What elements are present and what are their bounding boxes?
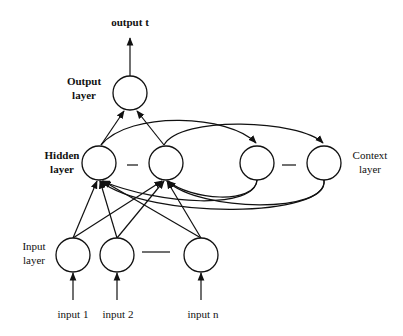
input2-label: input 2	[103, 308, 134, 320]
input-node-2	[100, 238, 134, 272]
svg-text:layer: layer	[50, 163, 74, 175]
svg-text:layer: layer	[359, 163, 381, 175]
edge-hidden2-output	[137, 111, 164, 145]
input-node-1	[56, 238, 90, 272]
elman-network-diagram: output t Output layer Hidden layer Conte…	[0, 0, 403, 336]
edge-context1-hidden1	[102, 180, 257, 201]
svg-text:layer: layer	[23, 254, 45, 266]
svg-text:layer: layer	[72, 89, 96, 101]
edge-context1-hidden2	[168, 180, 257, 197]
edge-in1-h1	[73, 181, 97, 238]
input-node-n	[184, 238, 218, 272]
input-layer-label: Input	[22, 240, 45, 252]
hidden-node-1	[82, 146, 116, 180]
context-layer-label: Context	[353, 149, 388, 161]
context-node-1	[240, 146, 274, 180]
context-node-2	[307, 146, 341, 180]
edge-hidden1-output	[101, 111, 124, 145]
hidden-layer-label: Hidden	[45, 149, 80, 161]
edge-context2-hidden1	[100, 180, 324, 209]
output-node	[113, 76, 147, 110]
input1-label: input 1	[58, 308, 89, 320]
output-label: output t	[111, 16, 149, 28]
output-layer-label: Output	[67, 75, 102, 87]
edge-hidden2-context2	[164, 124, 323, 145]
inputn-label: input n	[188, 308, 219, 320]
hidden-node-2	[149, 146, 183, 180]
edge-in2-h2	[117, 181, 164, 238]
